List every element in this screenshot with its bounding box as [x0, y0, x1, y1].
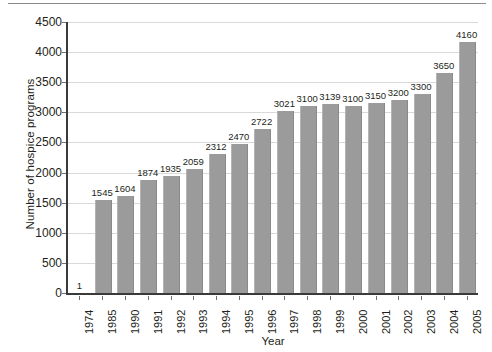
x-tick-label: 2005: [472, 310, 483, 334]
bar[interactable]: [300, 106, 317, 293]
bar-value-label: 2470: [222, 132, 256, 142]
x-tick-label: 1997: [289, 310, 300, 334]
x-tick-mark: [467, 296, 468, 300]
bar[interactable]: [436, 73, 453, 293]
bar[interactable]: [163, 176, 180, 293]
x-tick-label: 1994: [221, 310, 232, 334]
x-tick-label: 1993: [198, 310, 209, 334]
x-tick-mark: [79, 296, 80, 300]
y-tick-label: 2000: [2, 167, 62, 179]
bar[interactable]: [414, 94, 431, 293]
y-tick-label: 4000: [2, 46, 62, 58]
y-tick-label: 3500: [2, 76, 62, 88]
bar[interactable]: [391, 100, 408, 293]
x-tick-label: 2001: [381, 310, 392, 334]
y-tick-label: 1000: [2, 227, 62, 239]
x-tick-label: 2004: [449, 310, 460, 334]
x-tick-label: 1992: [176, 310, 187, 334]
x-tick-label: 1998: [312, 310, 323, 334]
bar-value-label: 3650: [427, 61, 461, 71]
bar-value-label: 2722: [245, 117, 279, 127]
bar[interactable]: [459, 42, 476, 293]
x-tick-mark: [330, 296, 331, 300]
x-tick-mark: [421, 296, 422, 300]
x-tick-label: 2002: [403, 310, 414, 334]
x-tick-label: 1991: [153, 310, 164, 334]
bar[interactable]: [277, 111, 294, 293]
x-tick-mark: [376, 296, 377, 300]
bar[interactable]: [186, 169, 203, 293]
bar[interactable]: [117, 196, 134, 293]
bar[interactable]: [231, 144, 248, 293]
x-tick-label: 1990: [130, 310, 141, 334]
bar-value-label: 1: [62, 281, 96, 291]
bar-value-label: 1604: [108, 184, 142, 194]
bar-chart-figure: Number of hospice programs Year 05001000…: [0, 0, 492, 352]
bar[interactable]: [322, 104, 339, 293]
top-divider-rule: [8, 3, 486, 4]
y-axis-tick-labels: 050010001500200025003000350040004500: [0, 22, 62, 293]
x-tick-mark: [102, 296, 103, 300]
y-tick-label: 1500: [2, 197, 62, 209]
gridline: [68, 52, 478, 53]
bar[interactable]: [209, 154, 226, 293]
x-axis-line: [66, 293, 478, 295]
bar-value-label: 4160: [450, 30, 484, 40]
y-tick-label: 0: [2, 287, 62, 299]
y-tick-label: 3000: [2, 106, 62, 118]
x-tick-label: 1999: [335, 310, 346, 334]
bar[interactable]: [254, 129, 271, 293]
x-tick-label: 1985: [107, 310, 118, 334]
x-tick-mark: [171, 296, 172, 300]
x-tick-label: 1995: [244, 310, 255, 334]
y-tick-label: 4500: [2, 16, 62, 28]
bar-value-label: 2059: [176, 157, 210, 167]
x-tick-mark: [239, 296, 240, 300]
bar-value-label: 2312: [199, 142, 233, 152]
x-tick-mark: [148, 296, 149, 300]
x-tick-label: 2003: [426, 310, 437, 334]
plot-area: 1154516041874193520592312247027223021310…: [68, 22, 478, 293]
bar[interactable]: [95, 200, 112, 293]
x-axis-title: Year: [68, 335, 478, 347]
bar[interactable]: [345, 106, 362, 293]
y-tick-label: 2500: [2, 136, 62, 148]
gridline: [68, 22, 478, 23]
x-tick-mark: [284, 296, 285, 300]
bar-value-label: 3300: [404, 82, 438, 92]
x-tick-label: 2000: [358, 310, 369, 334]
x-tick-mark: [193, 296, 194, 300]
x-tick-mark: [444, 296, 445, 300]
x-tick-label: 1996: [267, 310, 278, 334]
x-tick-mark: [216, 296, 217, 300]
x-tick-label: 1974: [84, 310, 95, 334]
x-tick-mark: [353, 296, 354, 300]
bar[interactable]: [140, 180, 157, 293]
x-tick-mark: [307, 296, 308, 300]
y-tick-label: 500: [2, 257, 62, 269]
x-tick-mark: [398, 296, 399, 300]
bar[interactable]: [368, 103, 385, 293]
x-tick-mark: [262, 296, 263, 300]
x-tick-mark: [125, 296, 126, 300]
